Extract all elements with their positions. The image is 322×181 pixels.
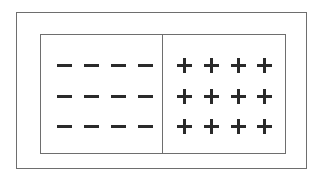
center-divider <box>162 34 163 154</box>
minus-sign-icon <box>111 125 126 128</box>
plus-sign-icon <box>257 89 272 104</box>
plus-sign-icon <box>231 58 246 73</box>
minus-sign-icon <box>111 95 126 98</box>
plus-sign-icon <box>257 58 272 73</box>
minus-sign-icon <box>138 125 153 128</box>
plus-sign-icon <box>231 89 246 104</box>
minus-sign-icon <box>84 95 99 98</box>
minus-sign-icon <box>84 125 99 128</box>
minus-sign-icon <box>57 95 72 98</box>
minus-sign-icon <box>138 95 153 98</box>
minus-sign-icon <box>57 125 72 128</box>
plus-sign-icon <box>231 119 246 134</box>
minus-sign-icon <box>84 64 99 67</box>
inner-box <box>40 34 286 154</box>
minus-sign-icon <box>57 64 72 67</box>
plus-sign-icon <box>257 119 272 134</box>
minus-sign-icon <box>111 64 126 67</box>
plus-sign-icon <box>204 119 219 134</box>
plus-sign-icon <box>177 89 192 104</box>
plus-sign-icon <box>204 58 219 73</box>
plus-sign-icon <box>177 58 192 73</box>
plus-sign-icon <box>177 119 192 134</box>
minus-sign-icon <box>138 64 153 67</box>
plus-sign-icon <box>204 89 219 104</box>
